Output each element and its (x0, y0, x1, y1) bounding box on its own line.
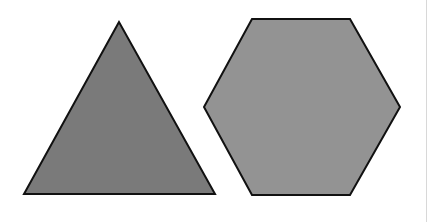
triangle-shape (24, 22, 215, 194)
right-edge-divider (426, 0, 427, 222)
diagram-canvas (0, 0, 430, 222)
shapes-svg (0, 0, 430, 222)
hexagon-shape (204, 19, 400, 195)
